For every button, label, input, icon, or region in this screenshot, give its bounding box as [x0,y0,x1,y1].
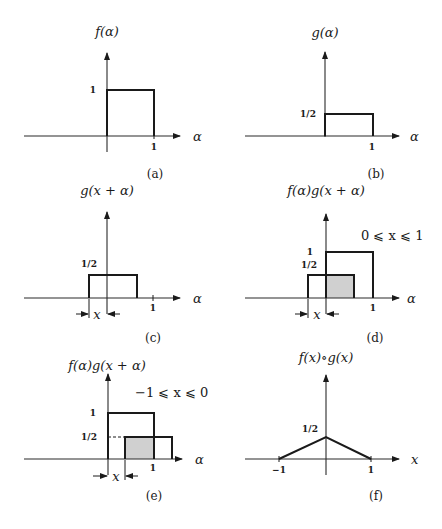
axis-label: α [410,129,419,144]
x-tick-neg: −1 [272,465,286,475]
x-tick-label: 1 [370,303,376,313]
y-tick-label: 1 [90,85,96,95]
axis-label: α [407,291,416,306]
x-tick-label: 1 [369,142,375,152]
y-tick-high: 1 [307,247,313,257]
x-tick-pos: 1 [368,465,374,475]
condition-label: −1 ⩽ x ⩽ 0 [135,385,208,400]
panel-caption: (c) [145,331,161,345]
panel-d: f(α)g(x + α) 1 1/2 1 α x 0 ⩽ x ⩽ 1 (d) [245,183,423,345]
panel-caption: (b) [367,167,384,181]
shift-label: x [112,469,120,484]
panel-e: f(α)g(x + α) 1 1/2 1 α x −1 ⩽ x ⩽ 0 (e) [24,358,208,503]
x-tick-label: 1 [151,142,157,152]
y-tick-high: 1 [90,408,96,418]
overlap-area [125,437,154,459]
condition-label: 0 ⩽ x ⩽ 1 [361,228,423,243]
panel-caption: (a) [147,167,164,181]
panel-title: f(α) [94,24,119,39]
panel-caption: (f) [369,489,383,503]
y-tick-low: 1/2 [301,260,317,270]
rect-g [325,114,373,136]
panel-title: f(α)g(x + α) [286,183,364,198]
shift-label: x [313,307,321,322]
y-tick-label: 1/2 [302,424,318,434]
triangle-result [279,437,371,459]
y-tick-label: 1/2 [300,109,316,119]
y-tick-label: 1/2 [81,259,97,269]
axis-label: α [195,452,204,467]
x-tick-label: 1 [150,303,156,313]
panel-title: g(x + α) [80,183,134,198]
axis-label: α [193,291,202,306]
panel-caption: (e) [146,489,162,503]
shift-label: x [93,307,101,322]
axis-label: x [411,452,419,467]
panel-a: f(α) 1 1 α (a) [24,24,202,181]
rect-g-shifted [89,275,137,298]
axis-label: α [193,129,202,144]
panel-caption: (d) [366,331,383,345]
panel-b: g(α) 1/2 1 α (b) [245,25,419,181]
panel-title: g(α) [311,25,338,40]
panel-f: f(x)∘g(x) 1/2 −1 1 x (f) [245,350,419,503]
convolution-diagram: f(α) 1 1 α (a) g(α) 1/2 1 α (b) g(x + α)… [0,0,442,529]
rect-f [107,90,154,136]
x-tick-label: 1 [150,463,156,473]
panel-c: g(x + α) 1/2 1 α x (c) [24,183,202,345]
y-tick-low: 1/2 [81,432,97,442]
panel-title: f(α)g(x + α) [67,358,145,373]
panel-title: f(x)∘g(x) [298,350,353,365]
overlap-area [326,275,354,298]
